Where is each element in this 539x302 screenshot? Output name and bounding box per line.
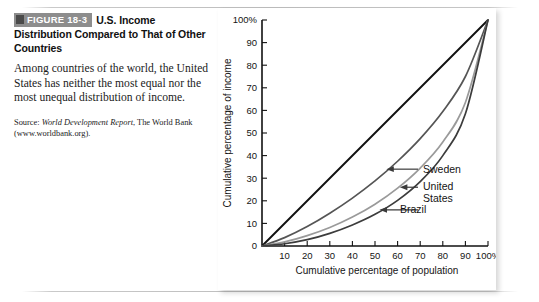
- y-tick-label: 60: [246, 105, 257, 116]
- x-tick-label: 10: [279, 250, 290, 261]
- page-rule-bottom: [22, 291, 518, 292]
- y-tick-label: 40: [246, 150, 257, 161]
- x-tick-label: 40: [347, 250, 358, 261]
- x-tick-label: 60: [392, 250, 403, 261]
- y-tick-label: 0: [252, 240, 257, 251]
- chart-panel: 0102030405060708090100%10203040506070809…: [218, 8, 496, 290]
- figure-body-text: Among countries of the world, the United…: [14, 62, 212, 106]
- annotation-label-brazil: Brazil: [400, 203, 426, 215]
- figure-number-badge: FIGURE 18-3: [14, 13, 92, 27]
- x-tick-label: 20: [302, 250, 313, 261]
- annotation-label-sweden: Sweden: [423, 163, 461, 175]
- figure-caption-block: FIGURE 18-3U.S. Income Distribution Comp…: [14, 14, 212, 140]
- source-publication: World Development Report: [42, 118, 133, 127]
- y-tick-label: 70: [246, 82, 257, 93]
- y-tick-label: 50: [246, 127, 257, 138]
- series-curve-line-of-equality: [262, 20, 488, 246]
- annotation-label-united-states-line1: United: [423, 180, 454, 192]
- y-tick-label: 80: [246, 60, 257, 71]
- x-tick-label: 100%: [476, 250, 496, 261]
- x-tick-label: 70: [415, 250, 426, 261]
- x-tick-label: 90: [460, 250, 471, 261]
- lorenz-curve-chart: 0102030405060708090100%10203040506070809…: [218, 8, 496, 290]
- x-tick-label: 80: [438, 250, 449, 261]
- y-tick-label: 30: [246, 173, 257, 184]
- annotation-label-united-states-line2: States: [423, 192, 453, 204]
- source-prefix: Source:: [14, 118, 42, 127]
- y-tick-label: 10: [246, 218, 257, 229]
- y-axis-title: Cumulative percentage of income: [222, 58, 233, 207]
- y-tick-label: 100%: [233, 14, 258, 25]
- x-tick-label: 30: [325, 250, 336, 261]
- figure-heading: FIGURE 18-3U.S. Income Distribution Comp…: [14, 14, 212, 55]
- y-tick-label: 90: [246, 37, 257, 48]
- x-axis-title: Cumulative percentage of population: [296, 265, 459, 276]
- y-tick-label: 20: [246, 195, 257, 206]
- x-tick-label: 50: [370, 250, 381, 261]
- figure-source-line: Source: World Development Report, The Wo…: [14, 117, 212, 140]
